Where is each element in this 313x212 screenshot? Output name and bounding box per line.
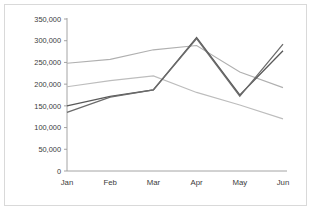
y-tick-label: 50,000	[38, 145, 61, 154]
y-tick-label: 0	[57, 167, 61, 176]
x-tick-label: Feb	[103, 178, 117, 187]
y-tick-label: 350,000	[34, 15, 61, 24]
line-chart: 050,000100,000150,000200,000250,000300,0…	[5, 5, 308, 207]
x-tick-label: May	[232, 178, 247, 187]
x-tick-label: Mar	[147, 178, 161, 187]
y-tick-label: 150,000	[34, 102, 61, 111]
x-tick-label: Apr	[191, 178, 204, 187]
y-tick-label: 300,000	[34, 36, 61, 45]
chart-frame: 050,000100,000150,000200,000250,000300,0…	[4, 4, 307, 206]
x-tick-label: Jan	[61, 178, 74, 187]
y-tick-label: 100,000	[34, 123, 61, 132]
chart-canvas: 050,000100,000150,000200,000250,000300,0…	[5, 5, 308, 207]
series-line-series-3	[67, 45, 283, 87]
y-tick-label: 250,000	[34, 58, 61, 67]
y-tick-label: 200,000	[34, 80, 61, 89]
x-tick-label: Jun	[277, 178, 290, 187]
